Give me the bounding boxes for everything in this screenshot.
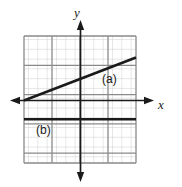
- x-axis-label: x: [158, 98, 164, 111]
- line-b-label: (b): [36, 124, 51, 136]
- line-a-label: (a): [102, 73, 117, 85]
- coordinate-plane-figure: x y (a) (b): [0, 0, 182, 187]
- y-axis-label: y: [74, 6, 80, 19]
- plot-canvas: [0, 0, 182, 187]
